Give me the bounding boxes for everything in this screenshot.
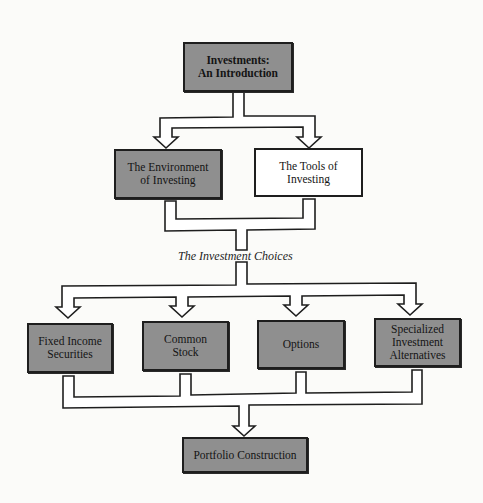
merge-arrow-bottom	[63, 370, 422, 436]
box-label: Portfolio Construction	[190, 449, 299, 462]
box-label: The Tools of Investing	[276, 160, 340, 186]
box-investments-introduction: Investments: An Introduction	[183, 42, 293, 92]
split-arrow-top	[154, 92, 321, 148]
box-environment-of-investing: The Environment of Investing	[114, 149, 222, 199]
merge-arrow-mid	[165, 199, 315, 250]
box-label: The Environment of Investing	[125, 161, 212, 187]
box-label: Specialized Investment Alternatives	[386, 323, 448, 362]
investment-flow-diagram: Investments: An Introduction The Environ…	[0, 0, 483, 503]
box-specialized-investment-alternatives: Specialized Investment Alternatives	[374, 318, 461, 367]
box-label: Common Stock	[161, 333, 210, 359]
box-fixed-income-securities: Fixed Income Securities	[27, 323, 113, 373]
box-label: Options	[280, 338, 322, 351]
box-portfolio-construction: Portfolio Construction	[182, 437, 308, 473]
investment-choices-caption: The Investment Choices	[178, 249, 293, 264]
box-tools-of-investing: The Tools of Investing	[254, 148, 363, 197]
box-label: Fixed Income Securities	[35, 335, 105, 361]
split-arrow-choices	[56, 262, 422, 318]
box-common-stock: Common Stock	[142, 321, 229, 371]
box-label: Investments: An Introduction	[195, 54, 281, 80]
box-options: Options	[257, 320, 345, 369]
